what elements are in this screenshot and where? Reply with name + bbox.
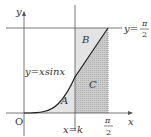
y-axis-arrow-icon bbox=[22, 11, 26, 16]
region-c-label: C bbox=[89, 79, 97, 90]
y-line-label-lhs: y= bbox=[123, 23, 138, 34]
origin-label: O bbox=[15, 116, 23, 127]
y-line-label-num: π bbox=[141, 19, 148, 28]
x-axis-label: x bbox=[128, 116, 134, 127]
curve-label: y=xsinx bbox=[24, 66, 65, 77]
region-b-label: B bbox=[81, 34, 89, 45]
x-k-label: x=k bbox=[63, 124, 83, 135]
y-line-label-den: 2 bbox=[142, 30, 147, 39]
diagram-canvas: y x O y=xsinx A B C y= π 2 x=k π 2 bbox=[0, 0, 151, 137]
region-a-label: A bbox=[60, 95, 68, 106]
x-end-label-num: π bbox=[104, 116, 111, 125]
x-end-label-den: 2 bbox=[106, 128, 111, 137]
y-axis-label: y bbox=[15, 6, 22, 17]
x-axis-arrow-icon bbox=[128, 111, 133, 115]
